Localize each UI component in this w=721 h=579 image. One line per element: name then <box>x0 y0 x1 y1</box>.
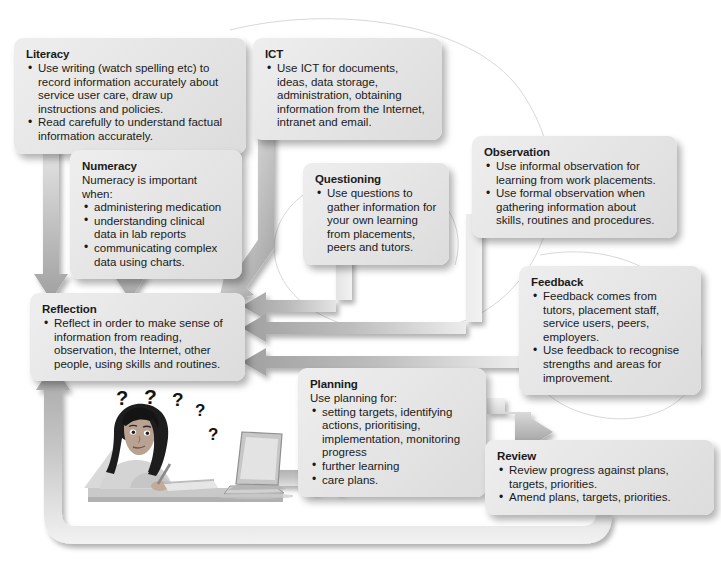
box-reflection[interactable]: Reflection Reflect in order to make sens… <box>30 293 245 381</box>
question-mark-icon: ? <box>208 426 218 443</box>
box-review-title: Review <box>497 449 702 463</box>
list-item: Use ICT for documents, ideas, data stora… <box>277 62 430 130</box>
list-item: Reflect in order to make sense of inform… <box>54 317 233 371</box>
box-review-list: Review progress against plans, targets, … <box>497 464 702 505</box>
question-mark-icon: ? <box>144 386 157 407</box>
question-mark-icon: ? <box>172 390 184 409</box>
list-item: administering medication <box>94 201 230 215</box>
box-literacy[interactable]: Literacy Use writing (watch spelling etc… <box>14 38 246 154</box>
box-questioning-title: Questioning <box>315 172 437 186</box>
box-planning-lead: Use planning for: <box>310 392 474 406</box>
box-numeracy-title: Numeracy <box>82 159 230 173</box>
box-observation[interactable]: Observation Use informal observation for… <box>472 136 677 238</box>
arrow-planning-to-review <box>487 398 553 446</box>
list-item: communicating complex data using charts. <box>94 242 230 269</box>
box-questioning-list: Use questions to gather information for … <box>315 187 437 255</box>
question-mark-icon: ? <box>116 388 128 408</box>
box-ict-title: ICT <box>265 47 430 61</box>
list-item: Review progress against plans, targets, … <box>509 464 702 491</box>
box-observation-list: Use informal observation for learning fr… <box>484 160 665 228</box>
box-feedback[interactable]: Feedback Feedback comes from tutors, pla… <box>519 266 701 395</box>
question-mark-icon: ? <box>195 402 205 419</box>
box-reflection-title: Reflection <box>42 302 233 316</box>
box-feedback-list: Feedback comes from tutors, placement st… <box>531 290 689 385</box>
list-item: understanding clinical data in lab repor… <box>94 215 230 242</box>
list-item: setting targets, identifying actions, pr… <box>322 406 474 460</box>
box-reflection-list: Reflect in order to make sense of inform… <box>42 317 233 371</box>
box-numeracy[interactable]: Numeracy Numeracy is important when: adm… <box>70 150 242 279</box>
box-planning-list: setting targets, identifying actions, pr… <box>310 406 474 488</box>
box-literacy-title: Literacy <box>26 47 234 61</box>
box-observation-title: Observation <box>484 145 665 159</box>
list-item: Use writing (watch spelling etc) to reco… <box>38 62 234 116</box>
list-item: Amend plans, targets, priorities. <box>509 491 702 505</box>
list-item: Use formal observation when gathering in… <box>496 187 665 228</box>
list-item: Read carefully to understand factual inf… <box>38 116 234 143</box>
box-review[interactable]: Review Review progress against plans, ta… <box>485 440 714 515</box>
box-literacy-list: Use writing (watch spelling etc) to reco… <box>26 62 234 144</box>
list-item: further learning <box>322 460 474 474</box>
list-item: Use feedback to recognise strengths and … <box>543 344 689 385</box>
box-planning-title: Planning <box>310 377 474 391</box>
list-item: Use informal observation for learning fr… <box>496 160 665 187</box>
box-questioning[interactable]: Questioning Use questions to gather info… <box>303 163 449 265</box>
box-numeracy-list: administering medication understanding c… <box>82 201 230 269</box>
student-at-laptop-illustration: ? ? ? ? ? <box>78 388 293 513</box>
list-item: Use questions to gather information for … <box>327 187 437 255</box>
box-feedback-title: Feedback <box>531 275 689 289</box>
illustration-art <box>78 388 293 513</box>
box-numeracy-lead: Numeracy is important when: <box>82 174 230 201</box>
box-ict-list: Use ICT for documents, ideas, data stora… <box>265 62 430 130</box>
diagram-canvas: Literacy Use writing (watch spelling etc… <box>0 0 721 579</box>
box-planning[interactable]: Planning Use planning for: setting targe… <box>298 368 486 497</box>
list-item: care plans. <box>322 474 474 488</box>
box-ict[interactable]: ICT Use ICT for documents, ideas, data s… <box>253 38 442 140</box>
list-item: Feedback comes from tutors, placement st… <box>543 290 689 344</box>
